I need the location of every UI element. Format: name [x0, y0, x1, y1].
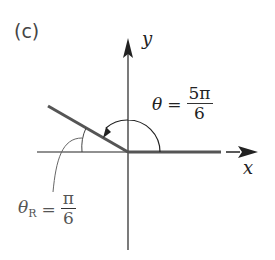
reference-angle-label: θR = π 6 [18, 190, 76, 227]
panel-label: (c) [14, 20, 39, 42]
y-axis-label: y [142, 28, 152, 49]
theta-arc [106, 120, 160, 152]
theta-fraction: 5π 6 [187, 85, 213, 122]
theta-label: θ = 5π 6 [152, 85, 213, 122]
x-axis-label: x [243, 157, 253, 178]
reference-subscript: R [28, 207, 36, 220]
terminal-side-ray [48, 106, 128, 152]
reference-numerator: π [61, 190, 76, 209]
reference-angle-arc [82, 128, 86, 152]
reference-theta: θR [18, 197, 37, 220]
theta-denominator: 6 [194, 104, 205, 122]
reference-fraction: π 6 [61, 190, 76, 227]
reference-equals: = [42, 199, 56, 219]
theta-symbol: θ [152, 94, 162, 114]
reference-denominator: 6 [63, 209, 74, 227]
theta-numerator: 5π [187, 85, 213, 104]
diagram-canvas: (c) y x θ = 5π 6 θR = π 6 [0, 0, 275, 260]
reference-leader-line [53, 138, 82, 192]
theta-equals: = [167, 94, 181, 114]
theta-arc-arrowhead [103, 127, 111, 138]
